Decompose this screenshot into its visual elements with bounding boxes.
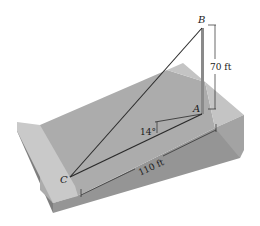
label-C: C [60,174,68,185]
label-14deg: 14° [140,127,156,137]
slope-pole-diagram: B A C 70 ft 14° 110 ft [0,0,260,226]
pole-AB [201,28,204,114]
label-A: A [192,103,200,114]
label-70ft: 70 ft [210,62,232,72]
label-B: B [197,14,205,25]
